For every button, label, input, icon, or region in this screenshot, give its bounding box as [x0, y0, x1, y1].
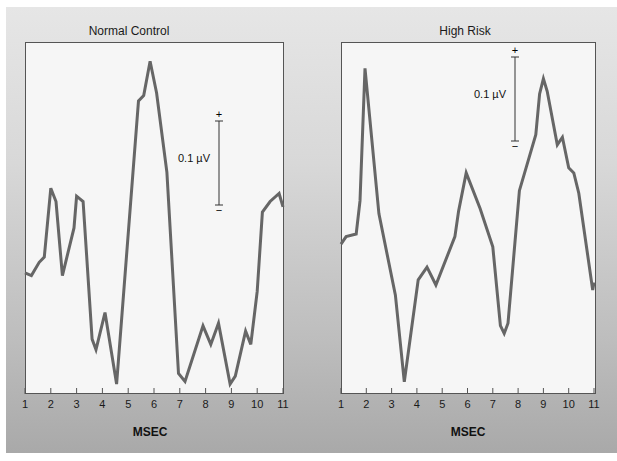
- normal-control-waveform: [25, 61, 283, 384]
- plus-sign: +: [512, 44, 518, 56]
- high-risk-waveform: [341, 68, 594, 381]
- minus-sign: −: [512, 140, 518, 152]
- minus-sign: −: [216, 204, 222, 216]
- plus-sign: +: [216, 108, 222, 120]
- waveform-overlay: +−+−: [0, 0, 617, 461]
